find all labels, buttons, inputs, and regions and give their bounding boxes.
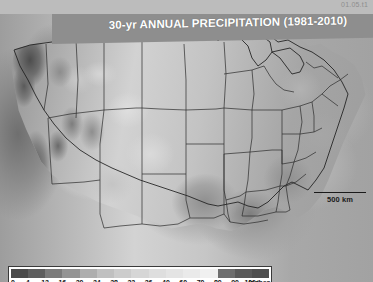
legend-swatch-10	[183, 269, 200, 278]
scale-bar-line	[314, 192, 366, 193]
legend-tick-90: 90	[231, 279, 239, 282]
scale-bar: 500 km	[314, 192, 366, 204]
legend-swatch-0	[11, 269, 28, 278]
precipitation-map: 30-yr ANNUAL PRECIPITATION (1981-2010) 5…	[0, 14, 373, 282]
legend: 04121620242832364060708090100+inches	[8, 266, 272, 282]
legend-swatch-1	[28, 269, 45, 278]
legend-swatch-9	[166, 269, 183, 278]
legend-swatch-8	[149, 269, 166, 278]
legend-tick-20: 20	[76, 279, 84, 282]
legend-swatch-5	[97, 269, 114, 278]
corner-code-label: 01.05.t1	[341, 1, 368, 8]
legend-tick-36: 36	[145, 279, 153, 282]
legend-tick-32: 32	[128, 279, 136, 282]
state-boundaries	[0, 14, 373, 282]
legend-tick-24: 24	[93, 279, 101, 282]
legend-swatch-6	[114, 269, 131, 278]
legend-tick-4: 4	[26, 279, 30, 282]
legend-swatch-12	[218, 269, 235, 278]
legend-tick-70: 70	[197, 279, 205, 282]
legend-swatch-2	[45, 269, 62, 278]
legend-tick-80: 80	[214, 279, 222, 282]
legend-swatch-11	[200, 269, 217, 278]
legend-unit-label: inches	[249, 279, 271, 282]
legend-swatch-7	[131, 269, 148, 278]
legend-swatch-3	[62, 269, 79, 278]
legend-swatch-14	[252, 269, 269, 278]
legend-swatch-4	[80, 269, 97, 278]
legend-tick-28: 28	[110, 279, 118, 282]
scale-bar-label: 500 km	[314, 195, 366, 204]
legend-swatch-13	[235, 269, 252, 278]
legend-tick-12: 12	[41, 279, 49, 282]
legend-tick-0: 0	[11, 279, 15, 282]
legend-tick-16: 16	[59, 279, 67, 282]
legend-tick-40: 40	[162, 279, 170, 282]
legend-color-swatches	[11, 269, 270, 278]
legend-tick-60: 60	[179, 279, 187, 282]
legend-tick-labels: 04121620242832364060708090100+inches	[11, 279, 270, 282]
top-strip: 01.05.t1	[0, 0, 373, 14]
